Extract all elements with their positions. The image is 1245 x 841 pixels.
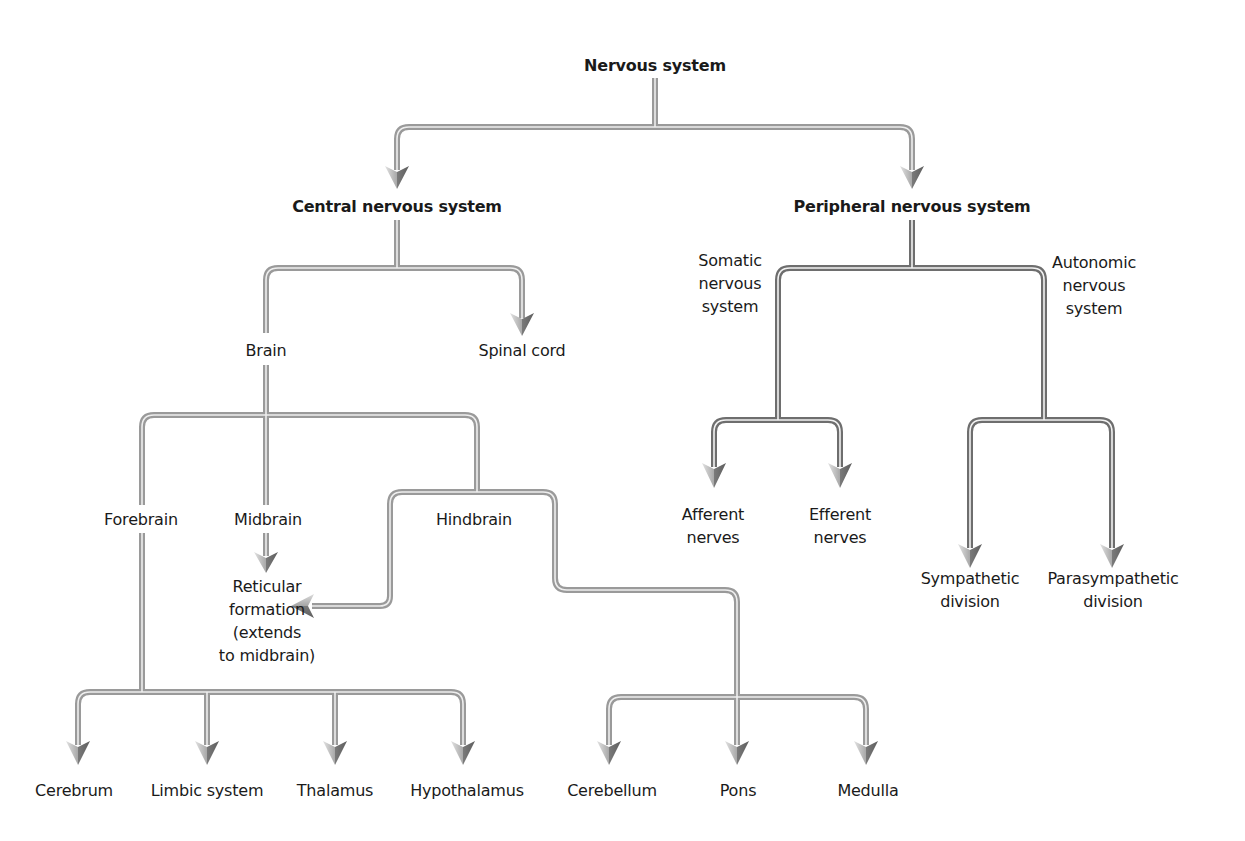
- node-cerebrum: Cerebrum: [35, 779, 113, 802]
- node-nervous-system: Nervous system: [584, 54, 726, 77]
- node-efferent-nerves: Efferent nerves: [809, 503, 871, 549]
- node-central-nervous-system: Central nervous system: [292, 195, 502, 218]
- node-spinal-cord: Spinal cord: [478, 339, 565, 362]
- node-sympathetic-division: Sympathetic division: [921, 567, 1020, 613]
- node-forebrain: Forebrain: [104, 508, 178, 531]
- node-brain: Brain: [246, 339, 287, 362]
- node-reticular-formation: Reticular formation (extends to midbrain…: [219, 575, 315, 667]
- node-somatic-nervous-system: Somatic nervous system: [698, 249, 761, 318]
- node-midbrain: Midbrain: [234, 508, 302, 531]
- nervous-system-diagram: Nervous system Central nervous system Pe…: [0, 0, 1245, 841]
- node-medulla: Medulla: [837, 779, 898, 802]
- connector-layer: [0, 0, 1245, 841]
- node-pons: Pons: [720, 779, 757, 802]
- arrowheads: [66, 166, 1124, 765]
- node-peripheral-nervous-system: Peripheral nervous system: [793, 195, 1030, 218]
- node-hypothalamus: Hypothalamus: [410, 779, 524, 802]
- node-thalamus: Thalamus: [297, 779, 373, 802]
- node-autonomic-nervous-system: Autonomic nervous system: [1052, 251, 1136, 320]
- node-cerebellum: Cerebellum: [567, 779, 657, 802]
- node-afferent-nerves: Afferent nerves: [682, 503, 744, 549]
- node-hindbrain: Hindbrain: [436, 508, 512, 531]
- cns-pipes: [78, 78, 912, 745]
- node-parasympathetic-division: Parasympathetic division: [1047, 567, 1178, 613]
- node-limbic-system: Limbic system: [151, 779, 264, 802]
